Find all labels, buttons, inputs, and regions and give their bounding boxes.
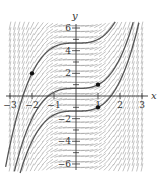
slope-segment: [113, 50, 117, 57]
y-tick-label: 2: [65, 68, 71, 78]
slope-segment: [34, 158, 38, 165]
slope-segment: [113, 73, 117, 80]
y-tick-label: 6: [65, 23, 71, 33]
slope-segment: [113, 152, 117, 159]
slope-segment: [34, 28, 38, 35]
x-tick-label: −2: [25, 100, 38, 110]
slope-segment: [34, 79, 38, 86]
slope-segment: [34, 33, 38, 40]
slope-segment: [34, 39, 38, 46]
slope-segment: [113, 124, 117, 131]
slope-segment: [34, 50, 38, 57]
slope-segment: [34, 84, 38, 91]
x-tick-label: −1: [47, 100, 60, 110]
initial-condition-point: [30, 71, 34, 75]
slope-segment: [34, 45, 38, 52]
slope-segment: [113, 113, 117, 120]
x-axis-label: x: [151, 90, 157, 101]
slope-segment: [34, 22, 38, 29]
initial-condition-point: [96, 82, 100, 86]
slope-segment: [113, 135, 117, 142]
slope-segment: [34, 118, 38, 125]
slope-segment: [113, 56, 117, 63]
x-tick-label: 3: [139, 100, 145, 110]
slope-segment: [113, 33, 117, 40]
slope-segment: [34, 141, 38, 148]
x-tick-label: 2: [117, 100, 123, 110]
slope-segment: [113, 79, 117, 86]
slope-segment: [113, 158, 117, 165]
initial-condition-point: [96, 105, 100, 109]
y-tick-label: −2: [58, 114, 71, 124]
slope-segment: [113, 28, 117, 35]
slope-segment: [34, 73, 38, 80]
slope-segment: [113, 164, 117, 171]
slope-segment: [34, 147, 38, 154]
slope-segment: [113, 39, 117, 46]
slope-segment: [113, 118, 117, 125]
slope-segment: [113, 147, 117, 154]
slope-segment: [34, 152, 38, 159]
y-tick-label: 4: [65, 46, 71, 56]
slope-field-chart: x y −3−2−1123642−2−4−6: [0, 0, 161, 179]
slope-segment: [34, 164, 38, 171]
slope-segment: [113, 45, 117, 52]
y-axis-label: y: [71, 10, 78, 21]
y-tick-label: −4: [58, 136, 72, 146]
slope-segment: [113, 130, 117, 137]
slope-segment: [113, 141, 117, 148]
x-tick-label: −3: [3, 100, 17, 110]
y-tick-label: −6: [58, 159, 72, 169]
